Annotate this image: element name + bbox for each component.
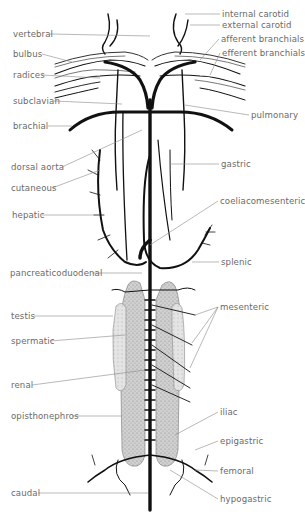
label-gastric: gastric — [221, 159, 251, 169]
label-hypogastric: hypogastric — [220, 494, 272, 504]
label-iliac: iliac — [220, 407, 238, 417]
label-caudal: caudal — [11, 488, 40, 498]
label-subclavian: subclavian — [13, 96, 60, 106]
label-pancreaticoduodenal: pancreaticoduodenal — [10, 268, 102, 278]
label-coeliacomesenteric: coeliacomesenteric — [220, 196, 305, 206]
label-afferent-branchials: afferent branchials — [221, 34, 304, 44]
label-splenic: splenic — [221, 257, 252, 267]
label-spermatic: spermatic — [11, 336, 55, 346]
label-pulmonary: pulmonary — [251, 110, 298, 120]
label-dorsal-aorta: dorsal aorta — [11, 162, 64, 172]
label-femoral: femoral — [220, 466, 254, 476]
label-internal-carotid: internal carotid — [222, 9, 289, 19]
label-opisthonephros: opisthonephros — [11, 411, 79, 421]
label-cutaneous: cutaneous — [11, 183, 57, 193]
label-brachial: brachial — [13, 121, 48, 131]
label-mesenteric: mesenteric — [220, 302, 269, 312]
label-hepatic: hepatic — [12, 210, 45, 220]
label-renal: renal — [11, 380, 33, 390]
label-epigastric: epigastric — [220, 436, 263, 446]
label-efferent-branchials: efferent branchials — [222, 48, 305, 58]
label-vertebral: vertebral — [13, 29, 53, 39]
label-bulbus: bulbus — [13, 49, 42, 59]
label-external-carotid: external carotid — [222, 20, 292, 30]
label-testis: testis — [11, 311, 35, 321]
label-radices: radices — [13, 70, 45, 80]
